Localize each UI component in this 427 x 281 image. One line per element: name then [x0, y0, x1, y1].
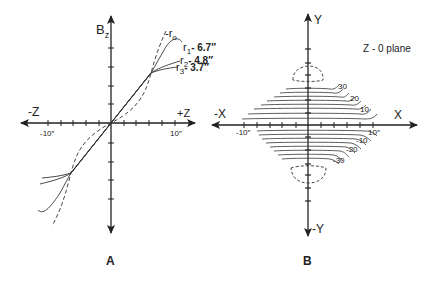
- curve-r1-label: r1- 6.7″: [183, 41, 216, 56]
- contour-label-neg20: -20: [346, 145, 358, 154]
- contour-label-10: 10: [360, 105, 369, 114]
- panel-a-tick-pos-label: 10″: [170, 129, 182, 138]
- panel-b-plane-label: Z - 0 plane: [363, 43, 411, 54]
- contour-label-neg30: -30: [333, 156, 345, 165]
- panel-a-y-axis-label: Bz: [96, 22, 110, 40]
- panel-b-y-pos-label: Y: [314, 13, 322, 27]
- panel-b-x-neg-label: -X: [214, 107, 226, 121]
- panel-b-tick-neg-label: -10″: [236, 128, 251, 137]
- contour-label-20: 20: [350, 94, 359, 103]
- curve-r1: [38, 39, 182, 212]
- panel-a: Bz -Z +Z -10″ 10″ -ro r1- 6.7″ r2- 4.8″ …: [21, 16, 216, 268]
- curve-r0: [52, 31, 166, 226]
- curve-r0-label: -ro: [165, 27, 177, 42]
- panel-a-caption: A: [106, 254, 115, 268]
- contour-label-neg10: -10: [356, 136, 368, 145]
- panel-b-tick-pos-label: 10″: [368, 128, 380, 137]
- panel-b: Y -Y -X X -10″ 10″ Z - 0 plane 30 20 10 …: [212, 13, 417, 268]
- panel-b-x-pos-label: X: [394, 108, 402, 122]
- panel-b-caption: B: [303, 254, 312, 268]
- panel-b-y-neg-label: -Y: [312, 222, 324, 236]
- panel-a-x-neg-label: -Z: [28, 105, 39, 119]
- figure-canvas: Bz -Z +Z -10″ 10″ -ro r1- 6.7″ r2- 4.8″ …: [0, 0, 427, 281]
- panel-a-tick-neg-label: -10″: [40, 129, 55, 138]
- contour-label-30: 30: [338, 82, 347, 91]
- panel-a-x-pos-label: +Z: [177, 107, 190, 119]
